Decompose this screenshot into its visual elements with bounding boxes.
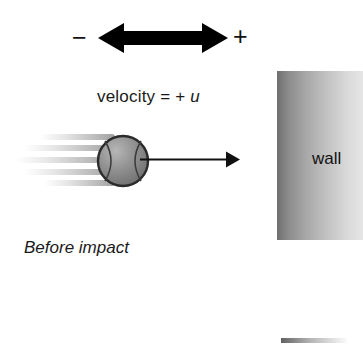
velocity-vector-arrow-icon [140, 148, 240, 172]
velocity-label-prefix: velocity = + [97, 87, 190, 106]
velocity-symbol: u [190, 87, 200, 106]
positive-direction-label: + [233, 24, 248, 49]
physics-diagram-before-impact: − + velocity = + u wall B [0, 0, 363, 348]
negative-direction-label: − [72, 25, 87, 50]
figure-caption: Before impact [24, 238, 129, 258]
next-panel-edge [281, 338, 347, 343]
double-headed-direction-arrow-icon [98, 20, 228, 56]
velocity-label: velocity = + u [97, 87, 200, 107]
wall-label: wall [312, 149, 341, 169]
